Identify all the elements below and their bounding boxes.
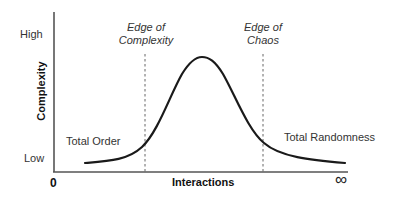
y-tick-high: High [20, 28, 43, 41]
y-tick-low: Low [24, 152, 44, 165]
x-axis-end-infinity: ∞ [335, 171, 347, 188]
edge-of-chaos-line2: Chaos [235, 34, 291, 47]
edge-of-complexity-line1: Edge of [110, 21, 182, 34]
edge-of-complexity-label: Edge of Complexity [110, 21, 182, 47]
x-axis-start: 0 [50, 177, 57, 190]
x-axis-label: Interactions [172, 176, 234, 189]
total-order-label: Total Order [66, 135, 120, 148]
edge-of-chaos-line1: Edge of [235, 21, 291, 34]
total-randomness-label: Total Randomness [284, 131, 375, 144]
edge-of-chaos-label: Edge of Chaos [235, 21, 291, 47]
complexity-diagram: High Low Complexity 0 Interactions ∞ Edg… [0, 0, 396, 198]
y-axis-label: Complexity [35, 61, 47, 120]
diagram-graphic [0, 0, 396, 198]
edge-of-complexity-line2: Complexity [110, 34, 182, 47]
complexity-curve [85, 57, 345, 163]
